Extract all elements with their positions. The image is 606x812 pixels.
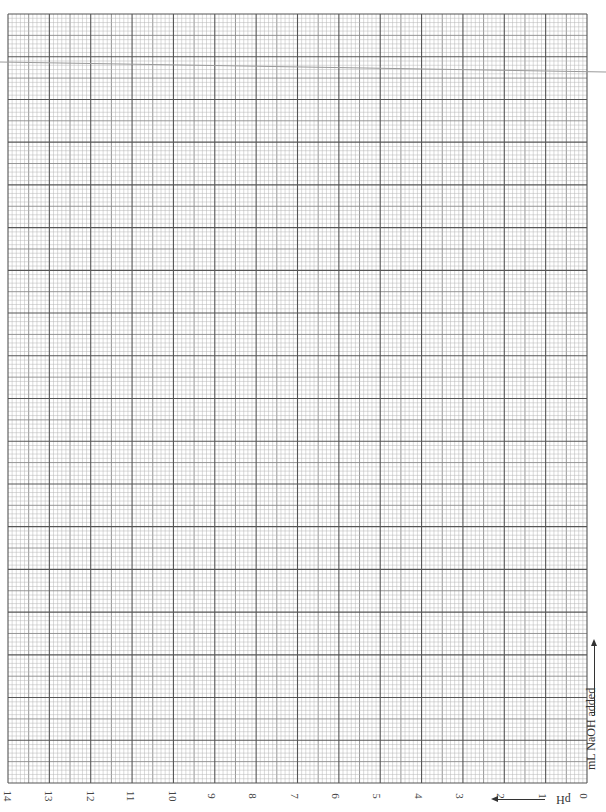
ph-tick-label: 5 <box>371 793 383 799</box>
graph-paper-grid <box>0 0 606 812</box>
ph-tick-label: 11 <box>125 791 137 802</box>
arrow-left-icon <box>491 796 498 802</box>
y-axis-label: pH <box>556 792 571 807</box>
ph-tick-label: 4 <box>412 793 424 799</box>
x-axis-arrow <box>594 645 595 715</box>
ph-tick-label: 9 <box>206 793 218 799</box>
ph-tick-label: 1 <box>536 793 548 799</box>
ph-tick-label: 14 <box>2 791 14 802</box>
ph-tick-label: 3 <box>454 793 466 799</box>
y-axis-arrow <box>497 799 545 800</box>
ph-tick-label: 12 <box>84 791 96 802</box>
arrow-up-icon <box>591 639 597 646</box>
ph-tick-label: 8 <box>247 793 259 799</box>
ph-tick-label: 0 <box>578 793 590 799</box>
x-axis-label: mL NaOH added <box>584 688 599 770</box>
ph-tick-label: 6 <box>330 793 342 799</box>
ph-tick-label: 10 <box>167 791 179 802</box>
ph-tick-label: 7 <box>288 793 300 799</box>
ph-tick-label: 13 <box>43 791 55 802</box>
